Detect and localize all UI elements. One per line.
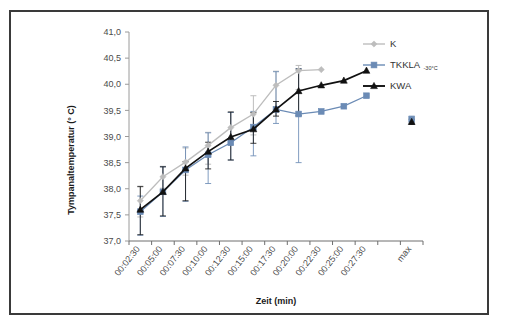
y-tick-label: 38,0 xyxy=(103,184,121,194)
y-tick-label: 38,5 xyxy=(103,158,121,168)
y-tick-label: 40,5 xyxy=(103,53,121,63)
x-tick-label: max xyxy=(395,244,414,264)
legend-sublabel-tkkla: -30°C xyxy=(424,65,438,71)
y-tick-label: 39,5 xyxy=(103,106,121,116)
data-point-marker xyxy=(363,67,370,73)
chart-screenshot: Tympanaltemperatur (° C) 37,037,538,038,… xyxy=(0,0,507,333)
chart-frame: Tympanaltemperatur (° C) 37,037,538,038,… xyxy=(9,10,489,315)
y-axis-title-text: Tympanaltemperatur (° C) xyxy=(66,105,76,214)
legend-label-kwa: KWA xyxy=(390,80,412,91)
y-axis-ticks: 37,037,538,038,539,039,540,040,541,0 xyxy=(103,27,129,246)
y-tick-label: 39,0 xyxy=(103,132,121,142)
x-axis-tick-labels: 00:02:3000:05:0000:07:3000:10:0000:12:30… xyxy=(112,244,413,278)
y-tick-label: 40,0 xyxy=(103,79,121,89)
data-point-marker xyxy=(296,111,302,117)
x-axis-title-text: Zeit (min) xyxy=(256,296,297,306)
data-point-marker xyxy=(371,62,377,68)
y-tick-label: 41,0 xyxy=(103,27,121,37)
line-chart: Tympanaltemperatur (° C) 37,037,538,038,… xyxy=(11,12,487,313)
data-point-marker xyxy=(205,148,212,154)
error-bars-tkkla xyxy=(137,69,414,236)
data-point-marker xyxy=(364,93,370,99)
data-point-marker xyxy=(318,67,324,73)
y-axis-title: Tympanaltemperatur (° C) xyxy=(66,105,76,214)
legend-label-tkkla: TKKLA xyxy=(390,59,421,70)
series-layer xyxy=(137,65,415,235)
data-point-marker xyxy=(341,103,347,109)
x-axis-ticks xyxy=(129,241,423,245)
y-tick-label: 37,0 xyxy=(103,236,121,246)
data-point-marker xyxy=(371,41,377,47)
chart-legend: KTKKLA-30°CKWA xyxy=(363,38,438,91)
caption-ghost-row xyxy=(18,320,488,332)
data-point-marker xyxy=(228,140,234,146)
legend-label-k: K xyxy=(390,38,397,49)
y-tick-label: 37,5 xyxy=(103,210,121,220)
data-point-marker xyxy=(318,109,324,115)
